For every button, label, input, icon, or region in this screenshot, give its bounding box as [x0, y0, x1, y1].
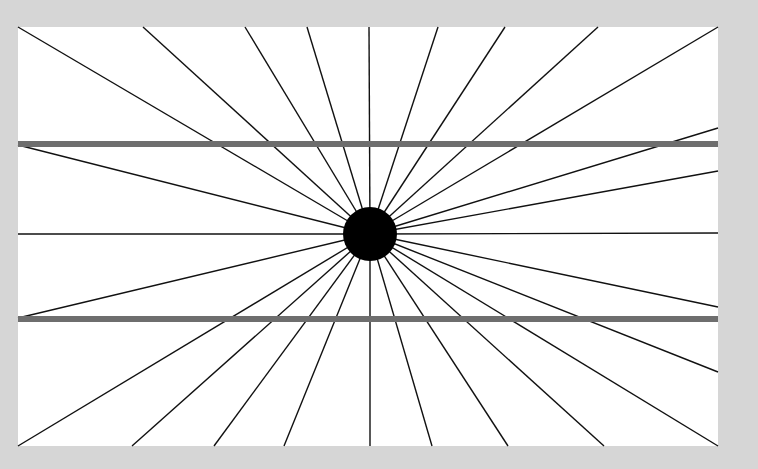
hering-illusion-figure	[0, 0, 758, 469]
upper-horizontal-bar	[18, 141, 718, 147]
lower-horizontal-bar	[18, 316, 718, 322]
illusion-canvas	[0, 0, 758, 469]
center-dot	[343, 207, 397, 261]
